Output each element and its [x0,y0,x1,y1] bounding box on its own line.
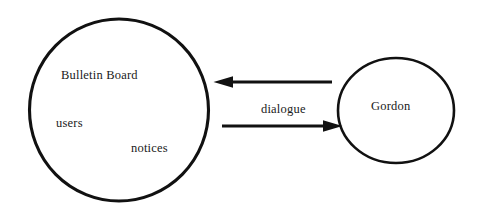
edge-label-dialogue: dialogue [261,103,306,116]
arrowhead-left-icon [214,76,234,88]
node-label-bulletin-board: Bulletin Board [61,69,138,82]
diagram-canvas: Bulletin Board users notices Gordon dial… [0,0,484,217]
diagram-graphics [0,0,484,217]
node-label-gordon: Gordon [371,100,410,113]
node-label-notices: notices [131,142,168,155]
node-label-users: users [56,117,83,130]
edge-bulletin-board-to-gordon[interactable] [222,120,343,132]
edge-gordon-to-bulletin-board[interactable] [214,76,333,88]
node-shape-bulletin-board[interactable] [30,19,209,201]
